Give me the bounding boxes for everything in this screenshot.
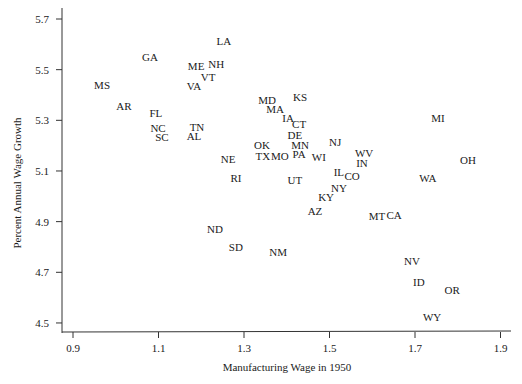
data-point-label: SC — [155, 131, 168, 143]
data-point-label: AR — [116, 100, 132, 112]
data-point-label: VA — [187, 80, 202, 92]
data-points: MSARGAFLNCSCLAMENHVTVATNALNERINDSDNMOKTX… — [94, 35, 476, 323]
data-point-label: MO — [271, 150, 289, 162]
x-axis: 0.91.11.31.51.71.9 Manufacturing Wage in… — [62, 331, 511, 373]
y-tick-label: 4.5 — [35, 317, 49, 329]
data-point-label: OR — [445, 284, 461, 296]
data-point-label: AZ — [308, 205, 323, 217]
data-point-label: MI — [431, 112, 445, 124]
y-tick-label: 5.7 — [35, 13, 49, 25]
data-point-label: SD — [229, 241, 243, 253]
data-point-label: NM — [269, 246, 287, 258]
y-tick-label: 4.7 — [35, 266, 49, 278]
data-point-label: NJ — [329, 136, 342, 148]
data-point-label: KS — [293, 91, 307, 103]
data-point-label: NH — [208, 58, 224, 70]
data-point-label: WI — [312, 151, 326, 163]
data-point-label: WA — [419, 172, 436, 184]
x-axis-line — [62, 331, 511, 332]
data-point-label: IN — [356, 157, 368, 169]
data-point-label: MS — [94, 79, 110, 91]
x-tick-label: 1.3 — [237, 342, 251, 354]
data-point-label: ND — [207, 223, 223, 235]
data-point-label: AL — [187, 130, 202, 142]
y-axis-title: Percent Annual Wage Growth — [11, 117, 23, 249]
data-point-label: TX — [255, 150, 270, 162]
data-point-label: NV — [404, 255, 420, 267]
data-point-label: VT — [201, 71, 216, 83]
y-tick-label: 4.9 — [35, 216, 49, 228]
x-tick-label: 1.1 — [152, 342, 166, 354]
x-tick-label: 1.7 — [408, 342, 422, 354]
y-tick-label: 5.1 — [35, 165, 49, 177]
x-tick-label: 1.5 — [323, 342, 337, 354]
x-tick-label: 1.9 — [494, 342, 508, 354]
data-point-label: NE — [221, 153, 236, 165]
data-point-label: CA — [386, 209, 401, 221]
data-point-label: FL — [150, 107, 163, 119]
data-point-label: OH — [460, 154, 476, 166]
data-point-label: UT — [288, 174, 303, 186]
scatter-chart: 5.75.55.35.14.94.74.5 Percent Annual Wag… — [0, 0, 522, 384]
data-point-label: ID — [413, 276, 425, 288]
data-point-label: GA — [142, 51, 158, 63]
y-axis-ticks: 5.75.55.35.14.94.74.5 — [35, 13, 62, 329]
data-point-label: CO — [345, 170, 360, 182]
data-point-label: MT — [369, 210, 386, 222]
x-axis-ticks: 0.91.11.31.51.71.9 — [66, 332, 508, 354]
x-tick-label: 0.9 — [66, 342, 80, 354]
y-tick-label: 5.5 — [35, 64, 49, 76]
y-tick-label: 5.3 — [35, 114, 49, 126]
data-point-label: IL — [334, 166, 345, 178]
data-point-label: PA — [293, 148, 306, 160]
data-point-label: RI — [230, 172, 241, 184]
y-axis: 5.75.55.35.14.94.74.5 Percent Annual Wag… — [11, 8, 62, 333]
data-point-label: WY — [423, 311, 441, 323]
x-axis-title: Manufacturing Wage in 1950 — [223, 361, 352, 373]
data-point-label: KY — [318, 191, 334, 203]
data-point-label: LA — [217, 35, 232, 47]
